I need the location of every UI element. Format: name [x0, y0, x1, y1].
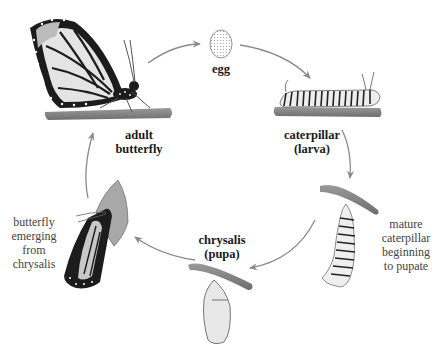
stage-label-caterpillar: caterpillar (larva) [272, 128, 352, 156]
emerging-butterfly-illustration [64, 180, 128, 288]
arrow-emerging-to-adult [86, 133, 93, 198]
arrow-egg-to-caterpillar [240, 45, 310, 78]
adult-butterfly-illustration [30, 19, 172, 120]
stage-label-emerging: butterfly emerging from chrysalis [6, 215, 62, 271]
stage-label-egg: egg [205, 62, 237, 76]
arrow-adult-to-egg [148, 44, 200, 63]
stage-label-chrysalis: chrysalis (pupa) [187, 233, 257, 261]
chrysalis-illustration [188, 264, 253, 344]
diagram-artwork [0, 0, 437, 357]
caterpillar-illustration [274, 72, 382, 117]
egg-illustration [210, 30, 232, 58]
life-cycle-diagram: adult butterfly egg caterpillar (larva) … [0, 0, 437, 357]
prepupa-illustration [320, 185, 379, 287]
stage-label-adult: adult butterfly [94, 128, 184, 156]
arrow-chrysalis-to-emerging [135, 237, 195, 260]
stage-label-prepupa: mature caterpillar beginning to pupate [375, 217, 437, 273]
arrow-prepupa-to-chrysalis [250, 220, 315, 268]
